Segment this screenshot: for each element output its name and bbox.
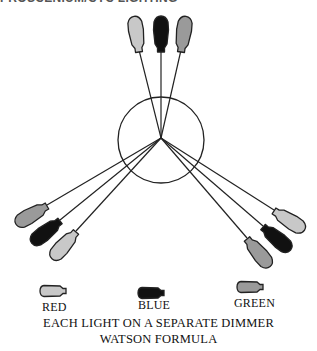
lamp-top-red [127, 15, 147, 53]
legend-label-red: RED [42, 300, 67, 315]
beams-lower-right [161, 138, 274, 238]
legend-lamp-red [40, 286, 66, 297]
beams-top [139, 50, 181, 138]
lamp-top-blue [154, 16, 169, 52]
caption-line-2: WATSON FORMULA [0, 332, 317, 347]
legend-lamp-blue [138, 288, 164, 299]
beams-lower-left [47, 138, 161, 231]
caption-line-1: EACH LIGHT ON A SEPARATE DIMMER [0, 316, 317, 331]
legend-label-green: GREEN [234, 296, 275, 311]
legend-label-blue: BLUE [138, 298, 170, 313]
legend-lamp-green [237, 282, 263, 293]
lamp-top-green [174, 15, 194, 53]
